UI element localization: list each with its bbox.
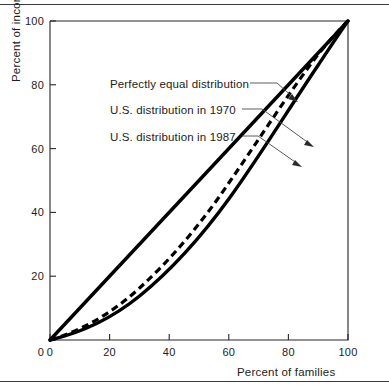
x-tick-label-60: 60 bbox=[222, 346, 235, 358]
annotation-us-distribution-1970: U.S. distribution in 1970 bbox=[110, 104, 236, 116]
annotation-perfectly-equal-distribution: Perfectly equal distribution bbox=[110, 78, 249, 90]
x-tick-label-20: 20 bbox=[103, 346, 116, 358]
y-tick-label-40: 40 bbox=[16, 206, 44, 218]
series-perfectly-equal-distribution bbox=[50, 21, 348, 340]
x-tick-label-100: 100 bbox=[339, 346, 358, 358]
y-tick-label-0: 0 bbox=[16, 346, 44, 358]
y-tick-label-20: 20 bbox=[16, 270, 44, 282]
y-tick-label-60: 60 bbox=[16, 143, 44, 155]
annotation-us-distribution-1987: U.S. distribution in 1987 bbox=[110, 131, 236, 143]
x-tick-label-0: 0 bbox=[47, 346, 53, 358]
lorenz-curve-figure: 100 80 60 40 20 0 0 20 40 60 80 100 Perc… bbox=[0, 0, 389, 391]
x-axis-ticks bbox=[50, 334, 348, 340]
plot-canvas bbox=[0, 0, 389, 391]
x-tick-label-80: 80 bbox=[282, 346, 295, 358]
y-axis-label: Percent of income bbox=[10, 0, 22, 82]
x-axis-label: Percent of families bbox=[237, 366, 335, 378]
y-axis-ticks bbox=[50, 21, 56, 340]
x-tick-label-40: 40 bbox=[163, 346, 176, 358]
